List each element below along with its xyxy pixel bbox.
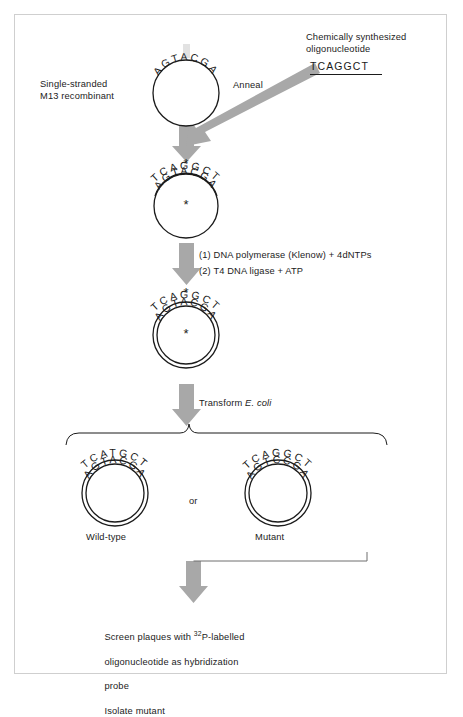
oligo-sequence-label: TCAGGCT [310, 60, 382, 75]
label-single-stranded-line2: M13 recombinant [40, 91, 114, 101]
label-chem-synth-line2: oligonucleotide [306, 44, 370, 54]
asterisk-outer-closed: * [183, 285, 188, 300]
label-screen-plaques: Screen plaques with 32P-labelled oligonu… [99, 616, 245, 717]
label-screen-suffix: P-labelled [202, 632, 245, 642]
circle-single-stranded-m13: AGTACGA [150, 50, 221, 126]
label-screen-line2: oligonucleotide as hybridization [104, 657, 238, 667]
label-single-stranded: Single-strandedM13 recombinant [40, 78, 114, 102]
asterisk-outer-annealed: * [183, 156, 188, 171]
circle-mutant: TCAGGCT AGTCCGA [238, 446, 319, 526]
label-single-stranded-line1: Single-stranded [40, 79, 107, 89]
label-screen-isotope: 32 [194, 630, 202, 637]
label-transform: Transform E. coli [199, 397, 271, 409]
label-transform-organism: E. coli [245, 398, 271, 408]
label-screen-line3: probe [104, 681, 129, 691]
label-anneal: Anneal [233, 79, 263, 91]
label-step-1: (1) DNA polymerase (Klenow) + 4dNTPs [199, 249, 372, 261]
arrow-polymerase-ligase [172, 243, 201, 285]
label-step-2: (2) T4 DNA ligase + ATP [199, 265, 303, 277]
circle-wild-type: TCATGCT AGTACGA [75, 446, 156, 526]
asterisk-inner-annealed: * [183, 197, 188, 212]
circle-closed-heteroduplex: TCAGGCT AGTACGA * * [146, 285, 227, 368]
asterisk-inner-closed: * [183, 326, 188, 341]
arrow-screen [179, 561, 208, 603]
label-chem-synth-oligo: Chemically synthesizedoligonucleotide [306, 31, 406, 55]
label-wild-type: Wild-type [86, 531, 126, 543]
label-transform-prefix: Transform [199, 398, 245, 408]
label-screen-line4: Isolate mutant [104, 706, 165, 716]
label-or: or [189, 495, 198, 507]
brace-progeny [66, 424, 387, 445]
label-mutant: Mutant [255, 531, 284, 543]
label-screen-prefix: Screen plaques with [104, 632, 193, 642]
arrow-transform [172, 384, 201, 426]
circle-annealed-heteroduplex: TCAGGCT AGTACGA * * [146, 156, 227, 238]
label-chem-synth-line1: Chemically synthesized [306, 32, 406, 42]
